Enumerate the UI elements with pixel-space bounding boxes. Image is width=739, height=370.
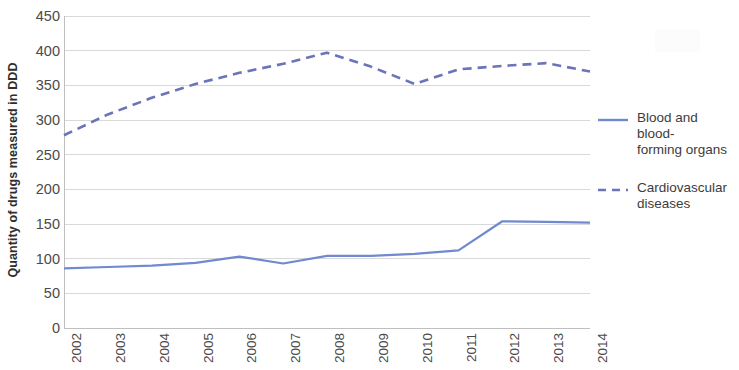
x-tick-label: 2012 <box>507 333 522 363</box>
legend-label-cardiovascular: Cardiovascular diseases <box>637 180 727 212</box>
x-axis-tick-labels: 2002200320042005200620072008200920102011… <box>0 333 620 370</box>
legend-swatch-solid-line-icon <box>598 112 628 128</box>
legend-swatch-dashed-line-icon <box>598 182 628 198</box>
x-tick-label: 2003 <box>113 333 128 363</box>
line-chart: Quantity of drugs measured in DDD 050100… <box>0 0 739 370</box>
x-tick-label: 2010 <box>420 333 435 363</box>
x-tick-label: 2007 <box>288 333 303 363</box>
legend-label-blood-line2: forming organs <box>637 142 727 157</box>
x-tick-label: 2006 <box>244 333 259 363</box>
x-tick-label: 2004 <box>157 333 172 363</box>
x-tick-label: 2009 <box>376 333 391 363</box>
legend-item-blood[interactable]: Blood and blood- forming organs <box>598 110 738 158</box>
legend-label-cardio-line2: diseases <box>637 196 690 211</box>
legend-item-cardiovascular[interactable]: Cardiovascular diseases <box>598 180 738 212</box>
x-tick-label: 2002 <box>69 333 84 363</box>
series-line-0 <box>64 221 590 268</box>
x-tick-label: 2013 <box>551 333 566 363</box>
x-tick-label: 2008 <box>332 333 347 363</box>
x-tick-label: 2011 <box>464 333 479 362</box>
legend-label-cardio-line1: Cardiovascular <box>637 180 727 195</box>
legend-label-blood: Blood and blood- forming organs <box>637 110 738 158</box>
series-line-1 <box>64 53 590 136</box>
chart-legend: Blood and blood- forming organs Cardiova… <box>598 110 738 234</box>
x-tick-label: 2005 <box>201 333 216 363</box>
legend-label-blood-line1: Blood and blood- <box>637 110 698 141</box>
x-tick-label: 2014 <box>595 333 610 363</box>
